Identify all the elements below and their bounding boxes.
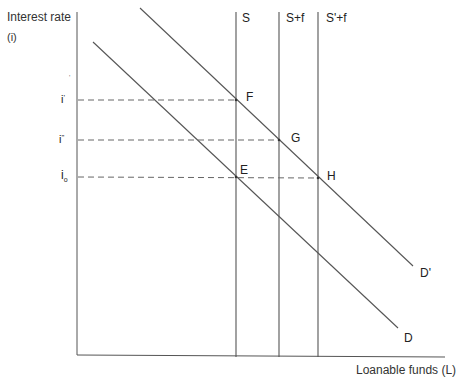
demand-curve-d (93, 42, 398, 328)
demand-label-d-prime: D' (420, 267, 431, 279)
y-axis-symbol: (i) (7, 32, 17, 43)
x-axis-title: Loanable funds (L) (356, 364, 456, 376)
y-axis-title: Interest rate (7, 11, 71, 23)
guide-i-zero (78, 177, 318, 178)
demand-curve-d-prime (140, 8, 413, 266)
rate-label-i-zero: io (61, 169, 68, 181)
rate-label-i-double-prime: i" (59, 134, 64, 145)
supply-label-s: S (242, 12, 250, 24)
rate-label-i-prime: i' (61, 94, 65, 105)
rate-label-i-zero-sub: o (64, 176, 68, 183)
rate-label-i-prime-mark: ' (63, 93, 65, 102)
point-label-h: H (327, 170, 336, 182)
point-label-e: E (240, 164, 248, 176)
point-e-dot (235, 176, 238, 179)
loanable-funds-diagram (0, 0, 460, 380)
point-h-dot (317, 177, 320, 180)
demand-label-d: D (404, 332, 413, 344)
point-label-f: F (246, 91, 253, 103)
point-label-g: G (291, 132, 300, 144)
rate-label-i-double-prime-mark: " (61, 133, 64, 142)
x-axis (77, 355, 445, 357)
point-f-dot (235, 99, 238, 102)
supply-label-s-prime-plus-f: S'+f (326, 12, 347, 24)
stray-tick-mark: ' (69, 74, 70, 81)
supply-label-s-plus-f: S+f (286, 12, 304, 24)
point-g-dot (278, 139, 281, 142)
